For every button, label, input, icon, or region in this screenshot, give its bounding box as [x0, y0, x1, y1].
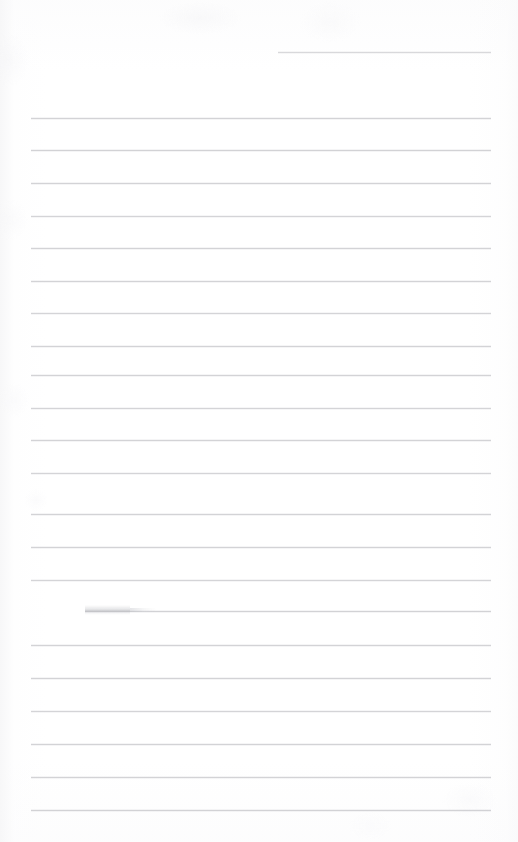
ruled-line — [31, 150, 491, 151]
scanned-page — [0, 0, 518, 842]
ruled-line — [31, 678, 491, 679]
ruled-line — [31, 547, 491, 548]
ruled-line — [31, 777, 491, 778]
paper-texture — [0, 0, 518, 842]
ruled-line — [31, 580, 491, 581]
ruled-line — [31, 183, 491, 184]
ruled-line — [31, 216, 491, 217]
ruled-line — [85, 611, 491, 612]
ruled-line — [31, 440, 491, 441]
ruled-line — [278, 52, 491, 53]
ruled-line — [31, 514, 491, 515]
ruled-line — [31, 313, 491, 314]
ruled-line — [31, 744, 491, 745]
ruled-line — [31, 810, 491, 811]
ruled-line — [31, 118, 491, 119]
ruled-line — [31, 375, 491, 376]
ruled-line — [31, 473, 491, 474]
ruled-line — [31, 645, 491, 646]
ruled-line — [31, 346, 491, 347]
ruled-line — [31, 711, 491, 712]
ruled-line — [31, 281, 491, 282]
ruled-line — [31, 248, 491, 249]
ruled-line — [31, 408, 491, 409]
scan-noise-overlay — [0, 0, 518, 842]
